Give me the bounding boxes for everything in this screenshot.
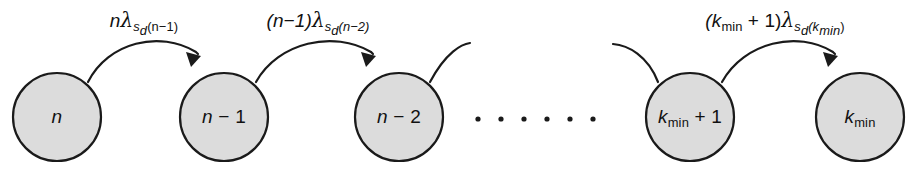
node-label-n-2-main: n bbox=[377, 106, 388, 127]
ellipsis-dot bbox=[567, 116, 572, 121]
ellipsis-dot bbox=[475, 116, 480, 121]
edge-label-sub-arg-sub-3: min bbox=[819, 23, 840, 38]
lambda-symbol-3: λ bbox=[782, 8, 795, 32]
edge-label-coef-3: (k bbox=[705, 10, 721, 31]
edge-label-coef-1: n bbox=[110, 10, 121, 31]
edge-label-sub-arg-open-3: (k bbox=[808, 19, 819, 34]
edge-label-sub-arg-2: (n−2) bbox=[339, 19, 370, 34]
node-label-kmin-plus-1-sub: min bbox=[668, 115, 689, 130]
edge-label-sub-arg-1: (n−1) bbox=[147, 19, 178, 34]
edge-label-sub-arg-close-3: ) bbox=[840, 19, 844, 34]
ellipsis-dots bbox=[475, 116, 595, 121]
edge-n-to-n-1 bbox=[88, 41, 201, 82]
edge-label-n-1-to-n-2: (n−1)λsd(n−2) bbox=[266, 8, 369, 32]
stub-out-n-2 bbox=[430, 43, 470, 82]
edge-label-coef-sub-3: min bbox=[721, 19, 742, 34]
edge-label-sub-d-3: d bbox=[801, 23, 808, 38]
node-label-kmin-plus-1-tail: + 1 bbox=[689, 106, 722, 127]
stub-in-kmin+1 bbox=[613, 44, 658, 82]
edge-n-1-to-n-2 bbox=[256, 41, 376, 82]
node-label-n-2: n − 2 bbox=[377, 106, 421, 128]
node-label-n-1: n − 1 bbox=[202, 106, 246, 128]
lambda-symbol-2: λ bbox=[312, 8, 325, 32]
edge-label-coef-tail-3: + 1) bbox=[742, 10, 781, 31]
state-transition-diagram: n n − 1 n − 2 kmin + 1 kmin nλsd(n−1) (n… bbox=[0, 0, 920, 172]
edge-curve-n-to-n-1 bbox=[88, 41, 198, 82]
node-label-n-2-tail: − 2 bbox=[388, 106, 421, 127]
node-label-n-1-tail: − 1 bbox=[213, 106, 246, 127]
edge-label-sub-d-2: d bbox=[331, 23, 338, 38]
node-label-kmin-plus-1: kmin + 1 bbox=[658, 106, 722, 128]
edge-label-kmin+1-to-kmin: (kmin + 1)λsd(kmin) bbox=[705, 8, 844, 32]
edge-label-n-to-n-1: nλsd(n−1) bbox=[110, 8, 178, 32]
edge-curve-kmin+1-to-kmin bbox=[722, 41, 835, 82]
ellipsis-dot bbox=[590, 116, 595, 121]
lambda-symbol-1: λ bbox=[121, 8, 134, 32]
edge-label-sub-s-3: s bbox=[794, 19, 801, 34]
node-label-kmin-main: k bbox=[844, 106, 854, 127]
node-label-kmin-sub: min bbox=[854, 115, 875, 130]
node-label-kmin-plus-1-main: k bbox=[658, 106, 668, 127]
ellipsis-dot bbox=[498, 116, 503, 121]
node-label-kmin: kmin bbox=[844, 106, 875, 128]
edge-label-coef-2: (n−1) bbox=[266, 10, 311, 31]
edge-curve-n-1-to-n-2 bbox=[256, 41, 373, 82]
edge-label-sub-s-2: s bbox=[325, 19, 332, 34]
ellipsis-dot bbox=[544, 116, 549, 121]
edge-kmin+1-to-kmin bbox=[722, 41, 838, 82]
ellipsis-dot bbox=[521, 116, 526, 121]
node-label-n: n bbox=[52, 106, 63, 128]
node-label-n-main: n bbox=[52, 106, 63, 127]
node-label-n-1-main: n bbox=[202, 106, 213, 127]
